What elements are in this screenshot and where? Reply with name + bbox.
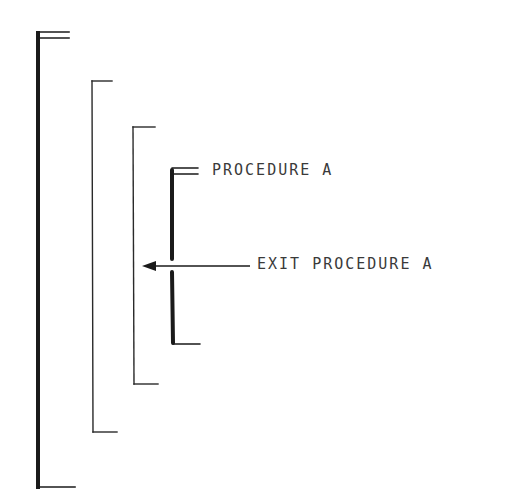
block-2-bracket bbox=[92, 81, 117, 432]
procedure-a-label: PROCEDURE A bbox=[212, 163, 333, 178]
procedure-a-bracket bbox=[172, 168, 200, 344]
exit-arrow bbox=[142, 261, 250, 271]
block-3-bracket bbox=[133, 127, 158, 384]
exit-procedure-a-label: EXIT PROCEDURE A bbox=[257, 257, 434, 272]
outer-block-bracket bbox=[38, 32, 75, 487]
arrowhead-left-icon bbox=[142, 261, 156, 271]
nested-blocks-diagram bbox=[0, 0, 511, 499]
